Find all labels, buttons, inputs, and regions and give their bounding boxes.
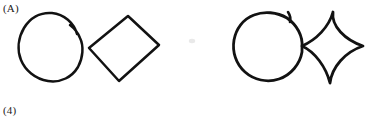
paper-speck <box>189 39 195 43</box>
left-diamond-shape <box>89 16 159 81</box>
right-diamond-shape <box>302 12 363 83</box>
left-shape-pair <box>19 13 159 81</box>
right-shape-pair <box>233 12 363 83</box>
right-circle-shape <box>233 13 302 81</box>
left-circle-shape <box>19 13 83 81</box>
figure-page: (A) (4) <box>0 0 366 134</box>
shape-figure-canvas <box>0 0 366 134</box>
figure-label-4: (4) <box>3 104 16 116</box>
